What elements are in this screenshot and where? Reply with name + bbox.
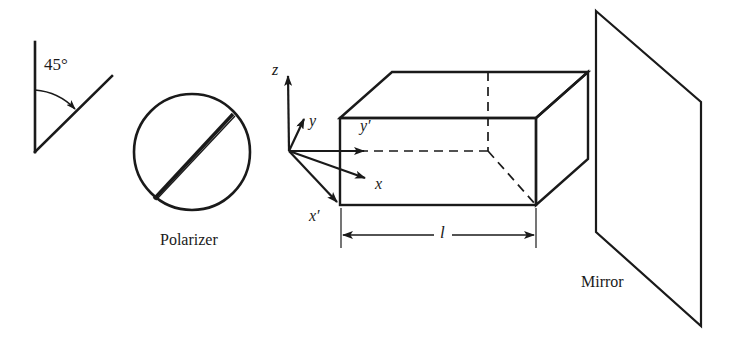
axis-label-y: y [309, 113, 316, 129]
coordinate-axes-group [288, 76, 365, 202]
box-right-face [536, 72, 588, 205]
dimension-line-group [341, 208, 536, 248]
axis-label-x: x [375, 176, 382, 192]
angle-arc [35, 90, 75, 109]
dimension-label: l [440, 224, 445, 241]
axis-z-line [288, 76, 289, 151]
prime-mark: ′ [367, 117, 371, 134]
box-hidden-edge-diagonal [488, 151, 536, 205]
mirror-caption: Mirror [581, 274, 624, 290]
axis-label-z: z [272, 62, 278, 78]
diagram-canvas [0, 0, 730, 346]
polarizer-circle [134, 94, 250, 210]
polarizer-axis-line [154, 114, 233, 199]
optics-diagram: 45° Polarizer z y y′ x x′ l Mirror [0, 0, 730, 346]
polarizer-caption: Polarizer [160, 232, 218, 248]
polarizer-axis-highlight [156, 116, 235, 200]
box-top-face [340, 72, 588, 118]
axis-y-line [289, 119, 304, 151]
polarizer-group [134, 94, 250, 210]
angle-label: 45° [44, 56, 68, 73]
angle-diagonal-line [35, 76, 112, 152]
axis-label-x-prime: x′ [309, 208, 320, 224]
axis-label-y-prime: y′ [360, 118, 371, 134]
prime-mark: ′ [316, 207, 320, 224]
